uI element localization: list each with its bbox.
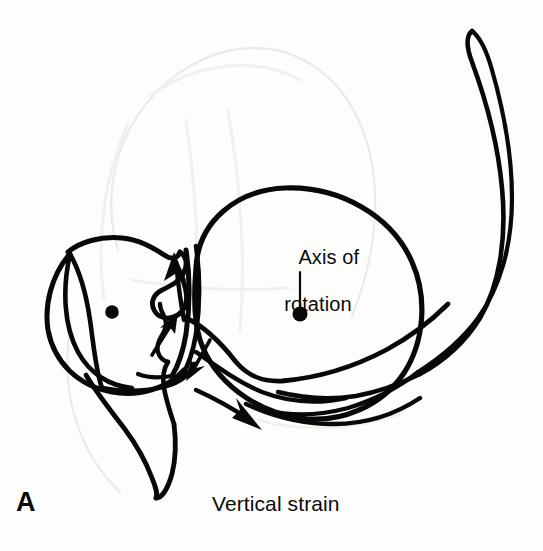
panel-letter: A [16, 487, 36, 519]
axis-of-rotation-label: Axis of rotation [259, 222, 377, 364]
innominate-axis-dot [105, 305, 119, 319]
figure-caption: Vertical strain [212, 492, 340, 517]
axis-label-line1: Axis of [298, 246, 359, 268]
axis-label-line2: rotation [259, 293, 377, 317]
inferolateral-arrow [196, 390, 262, 430]
sacroiliac-joint-surfaces [138, 246, 199, 377]
figure-panel-a: Axis of rotation A Vertical strain [0, 0, 543, 551]
